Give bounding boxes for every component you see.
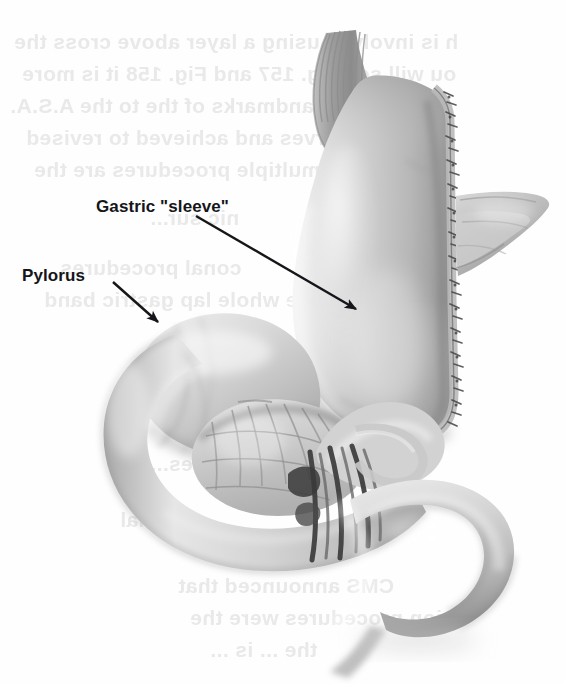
label-gastric-sleeve: Gastric "sleeve" xyxy=(96,197,229,217)
tissue-flap xyxy=(456,192,549,276)
pylorus-arrow xyxy=(113,282,158,322)
label-pylorus: Pylorus xyxy=(22,266,85,286)
anatomy-artwork xyxy=(0,0,566,684)
illustration-page: h is involved using a layer above cross … xyxy=(0,0,566,684)
